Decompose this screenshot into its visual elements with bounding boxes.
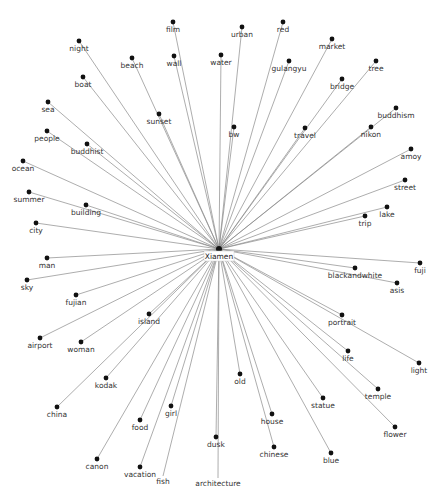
node-girl[interactable]: girl [165,404,177,418]
node-bw[interactable]: bw [229,125,240,139]
node-ocean[interactable]: ocean [12,159,35,173]
node-label: beach [121,61,144,70]
center-node[interactable]: Xiamen [204,246,234,261]
node-travel[interactable]: travel [294,126,316,140]
edge-water [219,55,221,249]
node-fish[interactable]: fish [156,477,170,486]
node-buddhism[interactable]: buddhism [377,106,414,120]
node-label: film [166,25,180,34]
node-label: statue [311,401,335,410]
node-life[interactable]: life [342,349,354,363]
node-food[interactable]: food [132,418,149,432]
node-boat[interactable]: boat [75,75,92,89]
node-water[interactable]: water [210,53,232,67]
node-label: ocean [12,164,35,173]
node-label: bridge [330,82,354,91]
node-buddhist[interactable]: buddhist [71,142,104,156]
node-label: buddhism [377,111,414,120]
node-nikon[interactable]: nikon [361,125,382,139]
edge-airport [40,249,219,338]
node-dot-icon [363,214,368,219]
node-label: flower [383,430,407,439]
node-summer[interactable]: summer [14,190,46,204]
node-old[interactable]: old [234,372,246,386]
node-people[interactable]: people [34,129,60,143]
node-tree[interactable]: tree [368,59,383,73]
node-dot-icon [303,126,308,131]
node-dot-icon [172,54,177,59]
node-dot-icon [329,451,334,456]
node-market[interactable]: market [319,37,346,51]
node-dot-icon [27,190,32,195]
node-fujian[interactable]: fujian [66,293,87,307]
node-canon[interactable]: canon [86,457,109,471]
node-dot-icon [417,361,422,366]
node-bridge[interactable]: bridge [330,77,354,91]
node-gulangyu[interactable]: gulangyu [272,59,307,73]
node-flower[interactable]: flower [383,425,407,439]
node-dot-icon [219,53,224,58]
node-dusk[interactable]: dusk [207,435,225,449]
node-kodak[interactable]: kodak [95,376,118,390]
node-wall[interactable]: wall [167,54,182,68]
node-label: summer [14,195,46,204]
node-woman[interactable]: woman [67,340,95,354]
node-island[interactable]: island [138,312,160,326]
node-dot-icon [238,372,243,377]
node-label: people [34,134,60,143]
node-vacation[interactable]: vacation [124,465,156,479]
node-temple[interactable]: temple [365,387,392,401]
network-diagram: filmnightbeachwallwaterurbanredgulangyum… [0,0,439,504]
node-label: market [319,42,346,51]
node-asis[interactable]: asis [390,281,405,295]
node-building[interactable]: building [71,203,101,217]
node-red[interactable]: red [277,20,290,34]
node-dot-icon [409,147,414,152]
node-label: light [411,366,428,375]
node-label: bw [229,130,240,139]
node-trip[interactable]: trip [359,214,372,228]
node-dot-icon [346,349,351,354]
node-label: life [342,354,354,363]
node-city[interactable]: city [29,221,43,235]
node-label: sky [21,283,34,292]
node-chinese[interactable]: chinese [260,445,289,459]
node-label: woman [67,345,95,354]
node-architecture[interactable]: architecture [195,479,241,488]
node-china[interactable]: china [47,405,67,419]
node-sunset[interactable]: sunset [147,112,172,126]
node-dot-icon [272,445,277,450]
node-amoy[interactable]: amoy [401,147,422,161]
node-label: lake [379,210,395,219]
node-dot-icon [321,396,326,401]
node-dot-icon [330,37,335,42]
node-dot-icon [77,39,82,44]
node-lake[interactable]: lake [379,205,395,219]
node-sea[interactable]: sea [41,100,54,114]
node-dot-icon [104,376,109,381]
node-statue[interactable]: statue [311,396,335,410]
node-dot-icon [281,20,286,25]
node-urban[interactable]: urban [231,25,253,39]
node-dot-icon [418,261,423,266]
node-dot-icon [385,205,390,210]
node-film[interactable]: film [166,20,180,34]
node-street[interactable]: street [394,178,416,192]
node-light[interactable]: light [411,361,428,375]
edge-summer [29,192,219,249]
node-label: fujian [66,298,87,307]
node-beach[interactable]: beach [121,56,144,70]
node-portrait[interactable]: portrait [328,313,356,327]
node-airport[interactable]: airport [27,336,52,350]
node-sky[interactable]: sky [21,278,34,292]
node-label: water [210,58,232,67]
node-dot-icon [393,425,398,430]
node-label: temple [365,392,392,401]
center-node-label: Xiamen [205,252,234,261]
node-blackandwhite[interactable]: blackandwhite [328,266,383,280]
node-house[interactable]: house [261,412,284,426]
node-night[interactable]: night [69,39,88,53]
node-dot-icon [46,100,51,105]
edge-vacation [140,249,219,467]
node-blue[interactable]: blue [323,451,340,465]
